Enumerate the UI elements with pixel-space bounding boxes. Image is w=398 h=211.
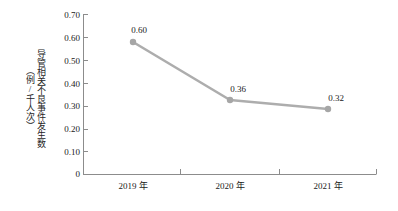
x-tick-label: 2021 年 bbox=[313, 181, 342, 191]
x-tick-label: 2020 年 bbox=[215, 181, 244, 191]
x-axis-tick-labels: 2019 年 2020 年 2021 年 bbox=[0, 0, 398, 211]
x-tick-label: 2019 年 bbox=[118, 181, 147, 191]
line-chart: 导管相关不良事件发生数 （例/千人次） 0.70 0.60 0.50 0.40 … bbox=[0, 0, 398, 211]
